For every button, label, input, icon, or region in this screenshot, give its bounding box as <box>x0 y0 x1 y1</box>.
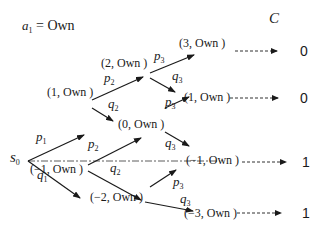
edge-label-q1: q1 <box>37 169 48 186</box>
edge-label-q2-lower: q2 <box>110 162 121 179</box>
cost-value-4: 1 <box>302 206 310 220</box>
node-minus1-own-b: (−1, Own ) <box>186 154 239 166</box>
node-0-own: (0, Own ) <box>118 118 164 130</box>
root-state-s0: s0 <box>10 151 20 169</box>
edge-label-q3-a: q3 <box>172 70 183 87</box>
cost-value-2: 0 <box>300 91 308 105</box>
edge-label-p2-lower: p2 <box>88 138 99 155</box>
node-minus2-own: (−2, Own ) <box>90 191 143 203</box>
node-1-own-b: (1, Own ) <box>184 91 230 103</box>
edge-label-p3-b: p3 <box>165 96 176 113</box>
node-3-own: (3, Own ) <box>179 37 225 49</box>
node-1-own: (1, Own ) <box>47 86 93 98</box>
edge-label-q2-upper: q2 <box>108 98 119 115</box>
action-label: a1 = Own <box>22 20 75 37</box>
edge-label-q3-b: q3 <box>165 137 176 154</box>
cost-column-header: C <box>269 12 279 24</box>
cost-value-1: 0 <box>300 44 308 58</box>
node-minus3-own: (−3, Own ) <box>184 207 237 219</box>
state-transition-tree-diagram: a1 = Own C s0 (1, Own ) (2, Own ) (3, Ow… <box>0 0 320 240</box>
edge-label-q3-c: q3 <box>180 193 191 210</box>
edge-label-p2-upper: p2 <box>104 72 115 89</box>
edge-label-p1: p1 <box>36 131 47 148</box>
edge-label-p3-a: p3 <box>154 50 165 67</box>
cost-value-3: 1 <box>302 155 310 169</box>
node-2-own: (2, Own ) <box>101 57 147 69</box>
